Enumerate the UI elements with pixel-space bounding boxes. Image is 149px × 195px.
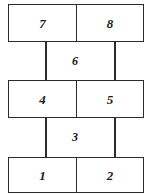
node-cell-8[interactable]: 8 [76, 5, 143, 41]
edge-label-lower: 3 [68, 131, 82, 143]
node-label: 5 [107, 93, 114, 106]
node-cell-7[interactable]: 7 [9, 5, 76, 41]
connector-left-upper [45, 41, 47, 81]
edge-label-upper: 6 [68, 55, 82, 67]
node-cell-2[interactable]: 2 [76, 158, 143, 192]
connector-left-lower [45, 117, 47, 158]
table-row: 7 8 [8, 4, 144, 42]
node-label: 7 [39, 17, 46, 30]
node-label: 4 [39, 93, 46, 106]
table-row: 4 5 [8, 80, 144, 118]
ladder-diagram: 7 8 6 4 5 3 1 2 [0, 0, 149, 195]
table-row: 1 2 [8, 157, 144, 193]
connector-right-lower [114, 117, 116, 158]
connector-right-upper [114, 41, 116, 81]
node-cell-4[interactable]: 4 [9, 81, 76, 117]
node-cell-5[interactable]: 5 [76, 81, 143, 117]
node-label: 1 [39, 169, 46, 182]
node-label: 2 [107, 169, 114, 182]
node-label: 8 [107, 17, 114, 30]
node-cell-1[interactable]: 1 [9, 158, 76, 192]
